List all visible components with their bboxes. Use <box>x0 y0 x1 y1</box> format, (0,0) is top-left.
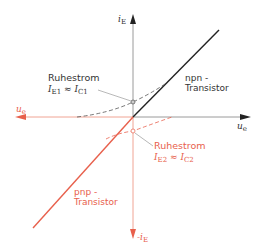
pnp-quiescent-formula: IE2 ≈ IC2 <box>154 152 206 165</box>
npn-formula-rhs-sub: C1 <box>78 88 88 96</box>
pnp-quiescent-label: Ruhestrom IE2 ≈ IC2 <box>154 141 206 165</box>
y-axis-neg-subscript: E <box>143 236 148 244</box>
pnp-title: pnp - Transistor <box>74 187 118 207</box>
npn-quiescent-formula: IE1 ≈ IC1 <box>48 84 100 97</box>
x-axis-arrow-right-icon <box>240 114 251 120</box>
x-axis-positive-label: ue <box>237 121 247 134</box>
y-axis-subscript: E <box>121 18 126 26</box>
pnp-title-line1: pnp - <box>74 187 118 197</box>
x-axis-subscript: e <box>243 125 247 133</box>
y-axis-positive-label: iE <box>118 14 126 27</box>
pnp-leader-line <box>135 133 153 146</box>
npn-quiescent-title: Ruhestrom <box>48 73 100 83</box>
npn-formula-lhs-sub: E1 <box>52 88 62 96</box>
x-axis-negative-label: ue <box>16 104 26 117</box>
npn-title-line1: npn - <box>185 73 229 83</box>
npn-title: npn - Transistor <box>185 73 229 93</box>
transfer-characteristic-diagram <box>0 0 272 250</box>
y-axis-arrow-up-icon <box>130 14 136 24</box>
pnp-quiescent-point <box>131 129 135 133</box>
pnp-quiescent-title: Ruhestrom <box>154 141 206 151</box>
pnp-formula-lhs-sub: E2 <box>158 156 168 164</box>
pnp-title-line2: Transistor <box>74 197 118 207</box>
npn-quiescent-point <box>131 100 135 104</box>
y-axis-negative-label: -iE <box>137 232 148 245</box>
y-axis-arrow-down-icon <box>130 229 136 239</box>
npn-title-line2: Transistor <box>185 83 229 93</box>
x-axis-neg-subscript: e <box>22 108 26 116</box>
npn-quiescent-label: Ruhestrom IE1 ≈ IC1 <box>48 73 100 97</box>
npn-formula-eq: ≈ <box>64 84 72 94</box>
pnp-characteristic-line <box>33 117 133 228</box>
pnp-formula-rhs-sub: C2 <box>184 156 194 164</box>
npn-leader-line <box>98 90 131 101</box>
pnp-formula-eq: ≈ <box>170 152 178 162</box>
